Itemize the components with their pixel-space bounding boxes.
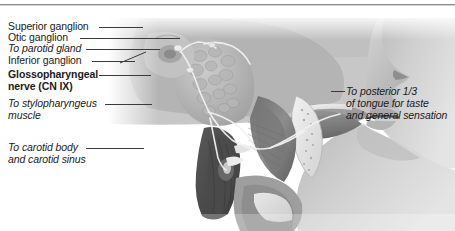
leader-to-stylopharyngeus xyxy=(105,104,152,105)
label-to-parotid-gland: To parotid gland xyxy=(8,43,81,55)
leader-to-parotid-gland xyxy=(86,49,160,50)
leader-superior-ganglion xyxy=(99,27,143,28)
label-to-posterior-tongue-line3: and general sensation xyxy=(346,109,447,121)
top-divider-rule-shadow xyxy=(0,5,455,6)
label-glossopharyngeal-nerve-line2: nerve (CN IX) xyxy=(8,81,73,93)
label-to-carotid-body-line1: To carotid body xyxy=(8,142,78,154)
label-and-carotid-sinus-line2: and carotid sinus xyxy=(8,154,86,166)
leader-to-carotid-body xyxy=(86,148,144,149)
label-inferior-ganglion: Inferior ganglion xyxy=(8,55,82,67)
label-glossopharyngeal-nerve-line1: Glossopharyngeal xyxy=(8,69,98,81)
label-to-stylopharyngeus-line2: muscle xyxy=(8,110,41,122)
label-to-posterior-tongue-line1: To posterior 1/3 xyxy=(346,85,417,97)
leader-glossopharyngeal-nerve xyxy=(99,75,151,76)
leader-inferior-ganglion-angled xyxy=(120,52,160,70)
figure-page: Superior ganglion Otic ganglion To parot… xyxy=(0,0,455,231)
label-to-stylopharyngeus-line1: To stylopharyngeus xyxy=(8,98,97,110)
leader-otic-ganglion xyxy=(80,38,180,39)
anatomical-illustration xyxy=(108,18,455,231)
leader-to-posterior-tongue xyxy=(331,91,345,92)
label-to-posterior-tongue-line2: of tongue for taste xyxy=(346,97,429,109)
